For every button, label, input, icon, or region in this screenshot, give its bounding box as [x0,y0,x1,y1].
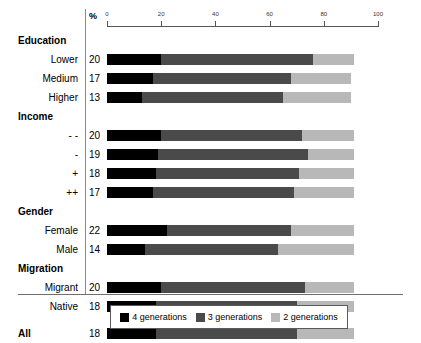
chart-row: Female22 [0,224,421,238]
segment-4-generations [107,225,167,236]
chart-row: Medium17 [0,72,421,86]
row-value: 18 [89,300,105,314]
legend-label: 3 generations [208,312,263,322]
chart-row: Lower20 [0,53,421,67]
segment-2-generations [278,244,354,255]
segment-2-generations [291,225,353,236]
chart-row: -19 [0,148,421,162]
group-title-education: Education [18,34,66,48]
segment-4-generations [107,73,153,84]
bar-All [107,328,378,339]
segment-3-generations [156,328,297,339]
legend-label: 2 generations [283,312,338,322]
axis-tick-20 [161,21,162,27]
chart-row: +18 [0,167,421,181]
row-label-Lower: Lower [0,53,78,67]
segment-4-generations [107,328,156,339]
row-label-: - - [0,129,78,143]
segment-4-generations [107,282,161,293]
row-value: 19 [89,148,105,162]
row-value: 17 [89,72,105,86]
axis-unit-label: % [89,11,97,21]
legend-swatch-icon [271,313,280,322]
chart-row: Male14 [0,243,421,257]
row-value: 18 [89,327,105,341]
axis-tick-label-40: 40 [212,11,219,17]
segment-3-generations [161,130,302,141]
segment-3-generations [167,225,292,236]
segment-4-generations [107,149,158,160]
row-value: 20 [89,53,105,67]
bar-Male [107,244,378,255]
chart-row: Migrant20 [0,281,421,295]
bar-row [107,168,378,179]
chart-row: Higher13 [0,91,421,105]
segment-3-generations [153,73,291,84]
row-label-: - [0,148,78,162]
segment-2-generations [297,328,354,339]
chart-row: ++17 [0,186,421,200]
bar-row [107,130,378,141]
segment-4-generations [107,168,156,179]
segment-2-generations [305,282,354,293]
segment-4-generations [107,130,161,141]
chart-legend: 4 generations3 generations2 generations [110,305,348,329]
x-axis: 020406080100 [107,13,378,31]
group-header-row: Gender [0,205,421,219]
x-axis-line [107,26,378,27]
group-title-migration: Migration [18,262,63,276]
axis-tick-label-80: 80 [320,11,327,17]
row-label-Migrant: Migrant [0,281,78,295]
legend-item: 4 generations [120,312,187,322]
row-value: 13 [89,91,105,105]
segment-3-generations [156,168,300,179]
segment-2-generations [308,149,354,160]
segment-4-generations [107,187,153,198]
segment-3-generations [145,244,278,255]
row-label-Female: Female [0,224,78,238]
axis-tick-40 [215,21,216,27]
bar-Female [107,225,378,236]
segment-2-generations [283,92,351,103]
segment-2-generations [294,187,354,198]
group-header-row: Migration [0,262,421,276]
legend-swatch-icon [196,313,205,322]
segment-2-generations [299,168,353,179]
group-title-income: Income [18,110,53,124]
chart-row: All18 [0,327,421,341]
row-value: 18 [89,167,105,181]
axis-tick-label-100: 100 [373,11,383,17]
axis-tick-80 [324,21,325,27]
row-value: 14 [89,243,105,257]
bar-row [107,149,378,160]
row-label-Male: Male [0,243,78,257]
axis-tick-label-20: 20 [158,11,165,17]
segment-4-generations [107,54,161,65]
row-label-Higher: Higher [0,91,78,105]
segment-3-generations [161,54,313,65]
group-title-gender: Gender [18,205,53,219]
stacked-bar-chart: % 020406080100 EducationLower20Medium17H… [0,0,421,343]
axis-tick-label-60: 60 [266,11,273,17]
axis-tick-label-0: 0 [105,11,108,17]
segment-3-generations [158,149,307,160]
segment-3-generations [161,282,305,293]
segment-4-generations [107,92,142,103]
axis-tick-100 [378,21,379,27]
row-value: 20 [89,129,105,143]
segment-4-generations [107,244,145,255]
segment-2-generations [313,54,354,65]
segment-2-generations [302,130,353,141]
legend-item: 2 generations [271,312,338,322]
bar-row [107,187,378,198]
legend-label: 4 generations [132,312,187,322]
bar-Migrant [107,282,378,293]
segment-3-generations [153,187,294,198]
axis-tick-0 [107,21,108,27]
row-label-: ++ [0,186,78,200]
row-value: 17 [89,186,105,200]
legend-item: 3 generations [196,312,263,322]
axis-tick-60 [270,21,271,27]
bar-Higher [107,92,378,103]
chart-row: - -20 [0,129,421,143]
